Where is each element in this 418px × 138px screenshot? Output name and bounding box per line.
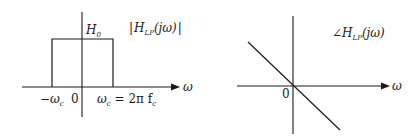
magnitude-x-arrow-icon <box>171 84 180 91</box>
magnitude-plot: H0 |HLP(jω)| ω −ωc 0 ωc = 2π fc <box>22 12 193 117</box>
phase-x-arrow-icon <box>381 83 390 90</box>
magnitude-x-label: ω <box>183 80 193 94</box>
magnitude-origin-label: 0 <box>71 92 79 106</box>
phase-plot: 0 ω ∠HLP(jω) <box>237 16 402 134</box>
phase-x-label: ω <box>392 79 402 93</box>
magnitude-title: |HLP(jω)| <box>129 21 182 37</box>
level-label: H0 <box>85 23 101 39</box>
neg-cutoff-label: −ωc <box>40 92 64 108</box>
phase-title: ∠HLP(jω) <box>332 26 385 42</box>
diagram-canvas: H0 |HLP(jω)| ω −ωc 0 ωc = 2π fc 0 ω ∠HLP… <box>0 0 418 138</box>
pos-cutoff-label: ωc = 2π fc <box>97 92 156 108</box>
phase-origin-label: 0 <box>282 87 290 101</box>
